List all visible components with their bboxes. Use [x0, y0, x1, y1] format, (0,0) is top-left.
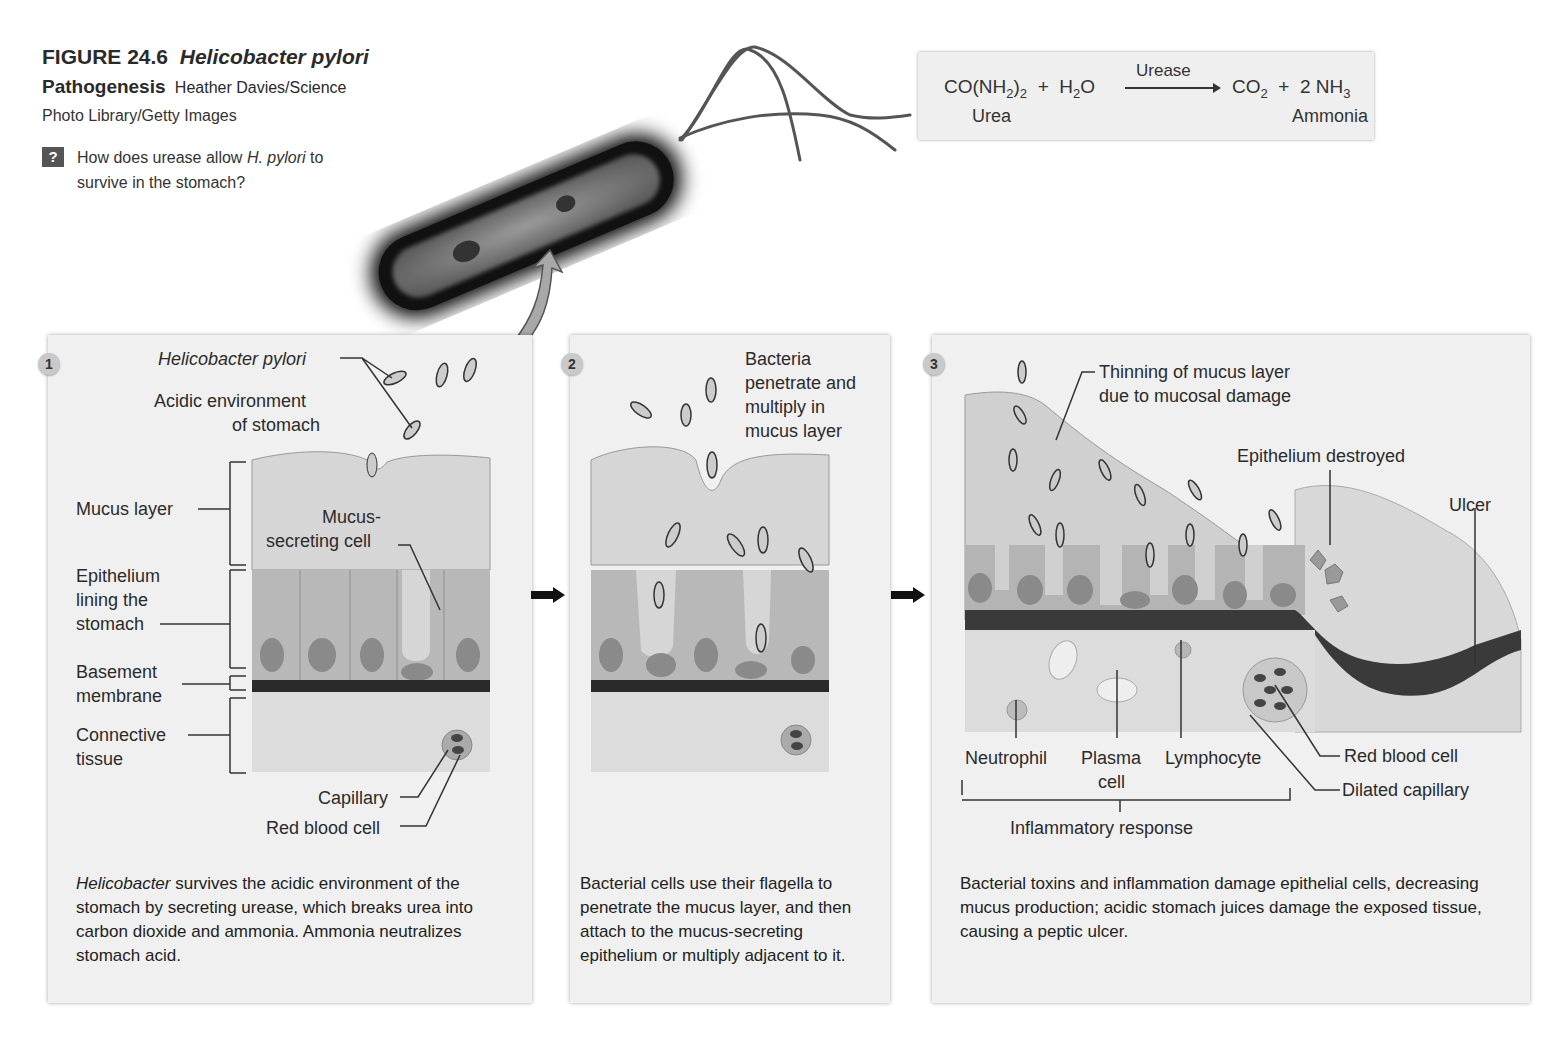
co2-formula: CO	[1232, 76, 1261, 97]
enzyme-label: Urease	[1136, 61, 1191, 81]
urea-label: Urea	[972, 106, 1011, 127]
caption-italic: Helicobacter	[76, 874, 171, 893]
caption-step-2: Bacterial cells use their flagella to pe…	[580, 872, 880, 968]
leader-lines-panel1	[0, 0, 560, 860]
sub: 2	[1020, 86, 1027, 101]
reaction-arrow-icon	[1125, 87, 1219, 89]
urease-equation: CO(NH2)2 + H2O Urease CO2 + 2 NH3 Urea A…	[918, 52, 1374, 140]
caption-step-3: Bacterial toxins and inflammation damage…	[960, 872, 1520, 944]
plus-sign: +	[1038, 76, 1049, 97]
water-formula: H	[1059, 76, 1073, 97]
step-badge-2: 2	[561, 353, 583, 375]
label-bacteria-2: penetrate and	[745, 371, 856, 395]
urea-formula: CO(NH	[944, 76, 1006, 97]
equation-products: CO2 + 2 NH3	[1232, 76, 1351, 101]
label-bacteria-1: Bacteria	[745, 347, 811, 371]
equation-reactants: CO(NH2)2 + H2O	[944, 76, 1095, 101]
arrow-right-icon	[531, 587, 567, 603]
label-bacteria-4: mucus layer	[745, 419, 842, 443]
water-o: O	[1080, 76, 1095, 97]
leader-lines-panel3	[920, 340, 1540, 840]
sub: 2	[1261, 86, 1268, 101]
ammonia-formula: 2 NH	[1300, 76, 1343, 97]
sub: 2	[1006, 86, 1013, 101]
ammonia-label: Ammonia	[1292, 106, 1368, 127]
label-bacteria-3: multiply in	[745, 395, 825, 419]
plus-sign: +	[1278, 76, 1289, 97]
sub: 3	[1343, 86, 1350, 101]
stomach-wall-penetrated	[591, 440, 831, 775]
caption-step-1: Helicobacter survives the acidic environ…	[76, 872, 516, 968]
